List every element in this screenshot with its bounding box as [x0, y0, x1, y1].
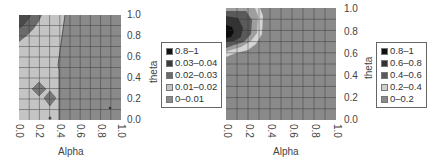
right-xtick: 0.8: [310, 124, 320, 138]
left-contour-svg: [19, 15, 121, 120]
legend-swatch-icon: [166, 48, 173, 55]
legend-swatch-icon: [381, 60, 388, 67]
left-y-axis-label: theta: [148, 61, 159, 83]
legend-label: 0.4–0.6: [390, 69, 422, 81]
legend-label: 0–0.2: [390, 93, 414, 105]
left-xtick: 0.0: [14, 124, 24, 138]
legend-item: 0.8–1: [381, 45, 422, 57]
legend-item: 0.2–0.4: [381, 81, 422, 93]
legend-label: 0.2–0.4: [390, 81, 422, 93]
right-xtick: 0.0: [222, 124, 232, 138]
right-x-axis-label: Alpha: [273, 146, 299, 157]
legend-item: 0.03–0.04: [166, 57, 217, 69]
left-ytick: 0.0: [127, 115, 141, 125]
legend-swatch-icon: [381, 48, 388, 55]
legend-item: 0.8–1: [166, 45, 217, 57]
left-ytick: 0.4: [127, 73, 141, 83]
legend-item: 0.4–0.6: [381, 69, 422, 81]
legend-label: 0.03–0.04: [175, 57, 217, 69]
right-ytick: 0.8: [344, 27, 358, 37]
legend-swatch-icon: [166, 96, 173, 103]
right-ytick: 1.0: [344, 4, 358, 14]
legend-swatch-icon: [381, 72, 388, 79]
legend-label: 0.6–0.8: [390, 57, 422, 69]
legend-label: 0.02–0.03: [175, 69, 217, 81]
left-ytick: 0.6: [127, 52, 141, 62]
left-xtick: 1.0: [116, 124, 126, 138]
legend-label: 0.8–1: [175, 45, 199, 57]
legend-label: 0–0.01: [175, 93, 204, 105]
legend-swatch-icon: [381, 96, 388, 103]
left-xtick: 0.2: [34, 124, 44, 138]
left-ytick: 0.2: [127, 94, 141, 104]
right-ytick: 0.6: [344, 49, 358, 59]
legend-swatch-icon: [166, 60, 173, 67]
right-xtick: 0.2: [244, 124, 254, 138]
right-xtick: 1.0: [332, 124, 342, 138]
right-chart-panel: 1.0 0.8 0.6 0.4 0.2 0.0 0.0 0.2 0.4 0.6 …: [218, 0, 437, 163]
left-x-axis-label: Alpha: [58, 146, 84, 157]
left-xtick: 0.6: [75, 124, 85, 138]
right-contour-plot: [226, 8, 336, 120]
legend-swatch-icon: [166, 84, 173, 91]
legend-item: 0.6–0.8: [381, 57, 422, 69]
left-ytick: 1.0: [127, 10, 141, 20]
right-legend: 0.8–1 0.6–0.8 0.4–0.6 0.2–0.4 0–0.2: [376, 42, 427, 108]
legend-label: 0.8–1: [390, 45, 414, 57]
left-legend: 0.8–1 0.03–0.04 0.02–0.03 0.01–0.02 0–0.…: [161, 42, 222, 108]
right-contour-svg: [226, 8, 336, 120]
right-ytick: 0.0: [344, 115, 358, 125]
legend-swatch-icon: [381, 84, 388, 91]
legend-label: 0.01–0.02: [175, 81, 217, 93]
right-ytick: 0.2: [344, 93, 358, 103]
right-xtick: 0.6: [288, 124, 298, 138]
legend-item: 0.01–0.02: [166, 81, 217, 93]
left-xtick: 0.8: [96, 124, 106, 138]
legend-item: 0–0.01: [166, 93, 217, 105]
left-xtick: 0.4: [55, 124, 65, 138]
left-ytick: 0.8: [127, 31, 141, 41]
legend-item: 0–0.2: [381, 93, 422, 105]
left-chart-panel: 1.0 0.8 0.6 0.4 0.2 0.0 0.0 0.2 0.4 0.6 …: [0, 0, 218, 163]
right-y-axis-label: theta: [363, 57, 374, 79]
right-xtick: 0.4: [266, 124, 276, 138]
legend-item: 0.02–0.03: [166, 69, 217, 81]
left-contour-plot: [19, 15, 121, 120]
right-ytick: 0.4: [344, 71, 358, 81]
legend-swatch-icon: [166, 72, 173, 79]
